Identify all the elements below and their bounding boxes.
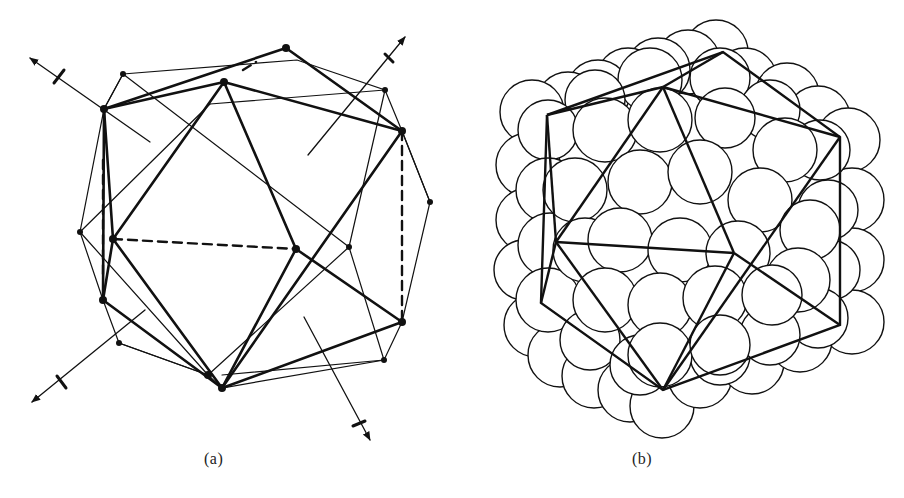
panel-a-diagram (30, 37, 433, 440)
figure-canvas (0, 0, 904, 498)
thick-icosahedron (103, 48, 402, 388)
axis-arrow-upper-right (308, 37, 405, 155)
axis-arrow-lower-left (32, 310, 145, 402)
panel-b-label: (b) (632, 450, 652, 468)
panel-b-diagram (494, 20, 884, 438)
panel-a-label: (a) (204, 450, 223, 468)
